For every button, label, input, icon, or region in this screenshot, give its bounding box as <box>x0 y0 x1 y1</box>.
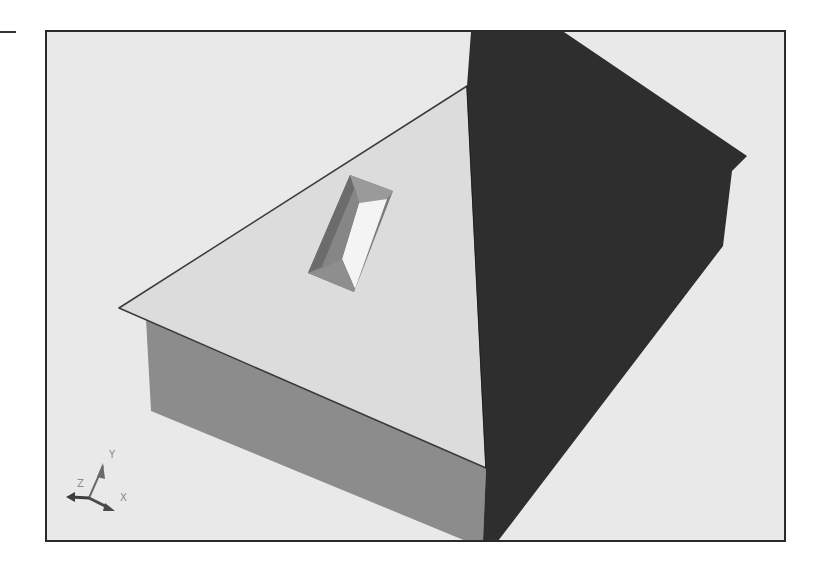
ucs-x-label: X <box>120 492 127 503</box>
3d-viewport[interactable]: Y Z X <box>45 30 786 542</box>
roof-model-drawing: Y Z X <box>47 32 784 540</box>
margin-rule-line <box>0 31 16 33</box>
ucs-y-label: Y <box>108 449 116 460</box>
ucs-icon: Y Z X <box>66 449 127 511</box>
dark-roof-plane <box>467 32 747 540</box>
ucs-z-label: Z <box>77 478 84 489</box>
